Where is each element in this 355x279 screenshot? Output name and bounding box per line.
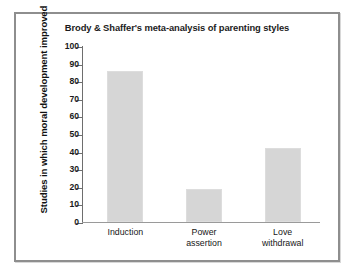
x-category-label: Love withdrawal — [233, 227, 333, 249]
y-tick-label: 60 — [69, 111, 79, 121]
plot-area: 0102030405060708090100 InductionPower as… — [82, 47, 318, 223]
bar — [107, 71, 143, 222]
y-tick-label: 80 — [69, 76, 79, 86]
figure-canvas: Brody & Shaffer's meta-analysis of paren… — [0, 0, 355, 279]
y-axis-line — [82, 46, 83, 224]
y-tick-label: 20 — [69, 182, 79, 192]
chart-title: Brody & Shaffer's meta-analysis of paren… — [16, 22, 338, 33]
bar — [265, 148, 301, 222]
y-tick-label: 70 — [69, 94, 79, 104]
chart-panel: Brody & Shaffer's meta-analysis of paren… — [14, 12, 340, 262]
y-tick-label: 100 — [65, 41, 79, 51]
y-axis-label: Studies in which moral development impro… — [38, 34, 49, 214]
y-tick-label: 0 — [74, 217, 79, 227]
bar — [186, 189, 222, 222]
y-tick-label: 30 — [69, 164, 79, 174]
y-tick-label: 10 — [69, 199, 79, 209]
y-tick-label: 90 — [69, 59, 79, 69]
y-tick-label: 50 — [69, 129, 79, 139]
x-axis-line — [82, 222, 320, 223]
y-tick-label: 40 — [69, 147, 79, 157]
